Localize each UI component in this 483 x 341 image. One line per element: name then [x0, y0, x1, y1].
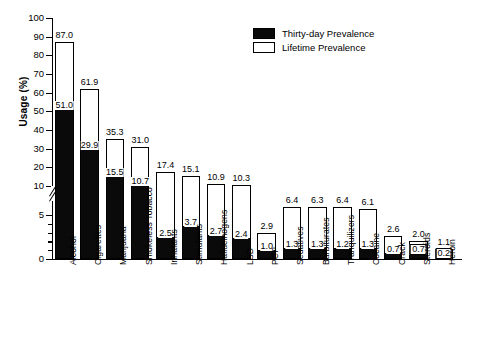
value-label-thirty-day: 2.4 — [235, 230, 249, 239]
x-label-smokeless-tobacco: Smokeless Tobacco — [144, 187, 154, 265]
value-label-thirty-day: 10.7 — [131, 177, 150, 186]
value-label-lifetime: 6.1 — [362, 198, 375, 207]
x-label-pcp: PCP — [270, 247, 280, 265]
legend-label-thirty-day: Thirty-day Prevalence — [282, 29, 374, 39]
prevalence-bar-chart: Usage (%) 05102030405060708090100 87.051… — [0, 0, 483, 341]
y-tick-label-40: 40 — [16, 125, 44, 135]
value-label-lifetime: 10.9 — [207, 173, 225, 182]
legend-label-lifetime: Lifetime Prevalence — [282, 43, 365, 53]
value-label-thirty-day: 29.9 — [80, 141, 99, 150]
value-label-thirty-day: 15.5 — [106, 168, 125, 177]
value-label-lifetime: 61.9 — [81, 78, 99, 87]
value-label-lifetime: 15.1 — [182, 165, 200, 174]
x-label-stimulants: Stimulants — [194, 224, 204, 265]
value-label-lifetime: 17.4 — [157, 161, 175, 170]
value-label-lifetime: 87.0 — [55, 31, 73, 40]
y-tick-label-70: 70 — [16, 69, 44, 79]
y-tick-label-50: 50 — [16, 106, 44, 116]
y-tick-label-0: 0 — [16, 254, 44, 264]
bar-alcohol[interactable]: 87.051.0 — [55, 42, 74, 259]
x-label-steroids: Steroids — [422, 233, 432, 265]
legend-item-lifetime: Lifetime Prevalence — [253, 42, 374, 53]
value-label-lifetime: 6.4 — [286, 196, 299, 205]
y-tick-label-100: 100 — [16, 13, 44, 23]
value-label-lifetime: 10.3 — [233, 174, 251, 183]
y-tick-label-60: 60 — [16, 88, 44, 98]
value-label-lifetime: 6.4 — [336, 196, 349, 205]
y-tick-label-30: 30 — [16, 144, 44, 154]
y-tick-label-20: 20 — [16, 162, 44, 172]
x-label-tranquilizers: Tranquilizers — [346, 215, 356, 265]
value-label-lifetime: 2.9 — [260, 222, 273, 231]
x-label-crack: Crack — [397, 242, 407, 265]
y-tick-label-80: 80 — [16, 50, 44, 60]
x-label-hallucinogens: Hallucinogens — [219, 210, 229, 265]
x-label-alcohol: Alcohol — [68, 236, 78, 265]
x-label-inhalants: Inhalants — [169, 229, 179, 265]
x-label-heroin: Heroin — [447, 239, 457, 265]
y-tick-label-5: 5 — [16, 210, 44, 220]
x-label-cocaine: Cocaine — [371, 233, 381, 265]
x-label-barbiturates: Barbiturates — [321, 217, 331, 265]
legend-swatch-open-icon — [253, 42, 275, 53]
x-label-sedatives: Sedatives — [295, 226, 305, 265]
value-label-lifetime: 6.3 — [311, 196, 324, 205]
value-label-lifetime: 35.3 — [106, 128, 124, 137]
legend: Thirty-day Prevalence Lifetime Prevalenc… — [253, 28, 374, 56]
value-label-lifetime: 2.6 — [387, 225, 400, 234]
x-label-lsd: LSD — [245, 248, 255, 265]
x-label-cigarettes: Cigarettes — [93, 225, 103, 265]
value-label-lifetime: 31.0 — [131, 136, 149, 145]
legend-item-thirty-day: Thirty-day Prevalence — [253, 28, 374, 39]
x-label-marijuana: Marijuana — [118, 226, 128, 265]
y-tick-0 — [46, 259, 52, 260]
legend-swatch-filled-icon — [253, 28, 275, 39]
y-tick-label-90: 90 — [16, 32, 44, 42]
value-label-thirty-day: 51.0 — [55, 101, 74, 110]
y-tick-label-10: 10 — [16, 181, 44, 191]
